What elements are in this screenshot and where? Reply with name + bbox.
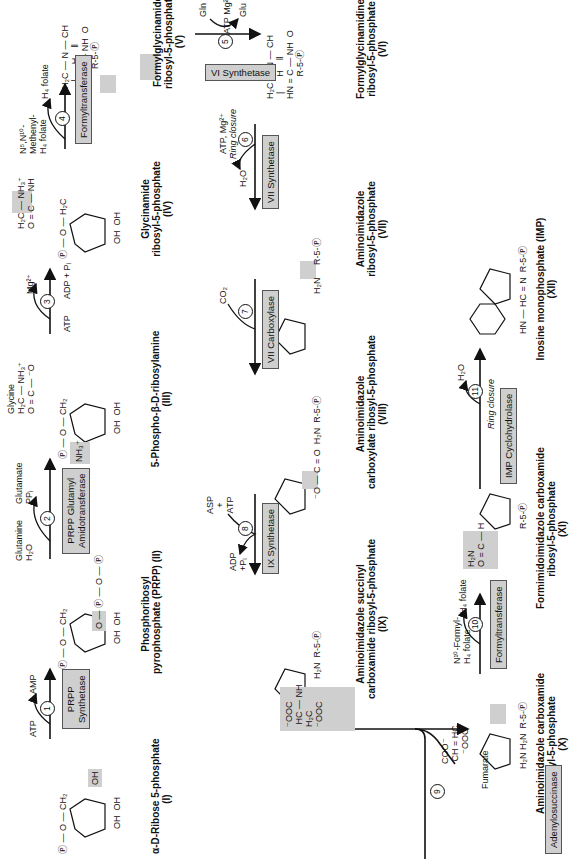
step-3-cofactor: Mg²⁺: [25, 274, 35, 295]
structure-VIII: ⁻O — C = O H₂N R-5-Ⓟ: [312, 396, 322, 499]
enzyme-adenylosuccinase: Adenylosuccinase: [545, 765, 562, 854]
step-2-out: GlutamatePPᵢ: [14, 462, 34, 504]
structure-XI: R-5-Ⓟ: [518, 503, 528, 530]
step-7-in: CO₂: [218, 287, 228, 304]
amine-III: NH₃⁺: [74, 440, 84, 462]
step-6-out: H₂O: [238, 170, 248, 187]
step-6-note: Ring closure: [228, 109, 238, 159]
step-11-note: Ring closure: [486, 379, 496, 429]
enzyme-prpp-glutamyl-amidotransferase: PRPP GlutamylAmidotransferase: [62, 468, 90, 554]
succinyl-IX: ⁻OOC HC — NHH₂C⁻OOC: [284, 685, 324, 728]
step-10-out: H₄ folate: [458, 579, 468, 614]
step-1-out: AMP: [28, 674, 38, 694]
compound-VI-label: Formylglycinamidineribosyl-5-phosphate(V…: [355, 0, 388, 99]
step-3-in: ATP: [62, 315, 72, 332]
step-5-cofactor: ATP Mg²⁺: [222, 4, 232, 34]
compound-XI-label: Formimidoimidazole carboxamideribosyl-5-…: [535, 449, 568, 609]
ribose-II-oh: OH OH: [112, 612, 122, 644]
phosphate-III: Ⓟ — O — CH₂: [58, 398, 68, 459]
structure-IX: H₂N R-5-Ⓟ: [312, 631, 322, 679]
compound-I-label: α-D-Ribose 5-phosphate(I): [150, 744, 172, 854]
purine-biosynthesis-diagram: α-D-Ribose 5-phosphate(I) Phosphoribosyl…: [0, 0, 571, 859]
step-11-out: H₂O: [456, 364, 466, 381]
compound-IV-label: Glycinamideribosyl-5-phosphate(IV): [140, 154, 173, 264]
phosphate-I: Ⓟ — O — CH₂: [58, 793, 68, 854]
step-8-out: ADP+Pᵢ: [228, 552, 248, 571]
glycine-reactant: GlycineH₂C — NH₃⁺O = C — ⁻O: [6, 362, 36, 414]
step-7-badge: 7: [238, 304, 253, 319]
compound-VII-label: Aminoimidazoleribosyl-5-phosphate(VII): [355, 179, 388, 279]
phosphate-IV: Ⓟ — O — H₂C: [58, 198, 68, 259]
step-3-out: ADP + Pᵢ: [62, 263, 72, 299]
step-8-badge: 8: [238, 521, 253, 536]
ribose-IV-oh: OH OH: [112, 212, 122, 244]
step-4-badge: 4: [55, 111, 70, 126]
compound-II-label: Phosphoribosylpyrophosphate (PRPP) (II): [140, 554, 162, 674]
step-5-out: Glu: [238, 3, 248, 17]
step-5-badge: 5: [218, 34, 233, 49]
fumarate: COO⁻ CH = HC ⁻OOC: [440, 725, 470, 764]
step-9-badge: 9: [430, 784, 445, 799]
step-1-in: ATP: [28, 720, 38, 737]
step-10-in: N¹⁰-Formyl-H₄ folate: [452, 617, 472, 664]
ribose-I-c1-oh: OH: [90, 772, 100, 786]
compound-IX-label: Aminoimidazole succinylcarboxamide ribos…: [355, 549, 388, 699]
structure-XII: HN — HC = N R-5-Ⓟ: [518, 246, 528, 334]
phosphate-II: Ⓟ — O — CH₂: [58, 608, 68, 669]
step-6-badge: 6: [238, 132, 253, 147]
structure-X: H₂N H₂N R-5-Ⓟ: [518, 702, 528, 769]
ribose-I-oh: OH OH: [112, 797, 122, 829]
step-1-badge: 1: [40, 701, 55, 716]
step-11-badge: 11: [468, 384, 483, 399]
enzyme-imp-cyclohydrolase: IMP Cyclohydrolase: [500, 388, 517, 484]
step-6-in: ATP, Mg²⁺: [218, 113, 228, 154]
compound-V-label: Formylglycinamideribosyl-5-phosphate(V): [152, 0, 185, 89]
step-5-in: Gln: [198, 3, 208, 17]
step-8-in: ASP+ATP: [205, 496, 235, 514]
step-9-out: Fumarate: [480, 750, 490, 789]
step-4-out: H₄ folate: [40, 64, 50, 99]
compound-III-label: 5-Phospho-β-D-ribosylamine(III): [150, 329, 172, 469]
compound-XII-label: Inosine monophosphate (IMP)(XII): [535, 209, 557, 369]
enzyme-formyltransferase-10: Formyltransferase: [490, 580, 507, 669]
ribose-III-oh: OH OH: [112, 402, 122, 434]
step-2-in: GlutamineH₂O: [14, 520, 34, 561]
glycinamide-IV: H₂C — NH₃⁺O = C — NH: [16, 177, 36, 229]
enzyme-prpp-synthetase: PRPPSynthetase: [62, 669, 90, 729]
compound-VIII-label: Aminoimidazolecarboxylate ribosyl-5-phos…: [355, 339, 388, 489]
enzyme-vii-carboxylase: VII Carboxylase: [262, 290, 279, 369]
step-2-badge: 2: [40, 511, 55, 526]
highlight-o-v: [100, 75, 116, 93]
enzyme-vii-synthetase: VII Synthetase: [262, 135, 279, 209]
structure-VII: H₂N R-5-Ⓟ: [312, 238, 322, 294]
highlight-h2n-x: [490, 704, 506, 724]
enzyme-vi-synthetase: VI Synthetase: [205, 64, 276, 81]
pyrophosphate-II: O — Ⓟ — O — Ⓟ: [94, 555, 104, 629]
enzyme-formyltransferase-4: Formyltransferase: [75, 55, 92, 144]
structure-XI-formyl: H₂NO = C — H: [466, 523, 486, 567]
enzyme-ix-synthetase: IX Synthetase: [262, 503, 279, 574]
step-3-badge: 3: [40, 294, 55, 309]
step-4-in: N⁵,N¹⁰-Methenyl-H₄ folate: [18, 114, 48, 154]
